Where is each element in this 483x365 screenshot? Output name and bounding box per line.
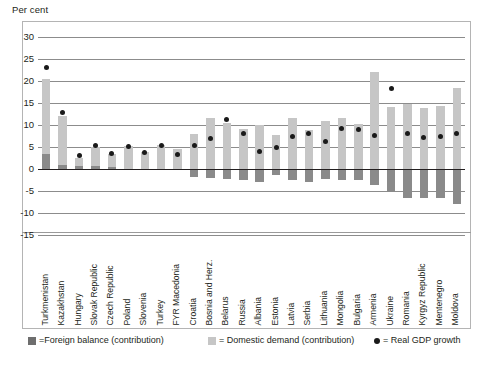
x-tick-label: Estonia	[271, 297, 280, 326]
bar-domestic-demand	[58, 116, 67, 169]
point-real-gdp-growth	[60, 110, 65, 115]
legend-label: =Foreign balance (contribution)	[39, 336, 164, 345]
bar-foreign-balance	[436, 169, 445, 198]
point-real-gdp-growth	[192, 143, 197, 148]
x-tick-label: FYR Macedonia	[173, 264, 182, 326]
x-tick-label: Russia	[238, 300, 247, 326]
bar-foreign-balance	[370, 169, 379, 185]
x-tick-label: Ukraine	[386, 296, 395, 326]
point-real-gdp-growth	[208, 136, 213, 141]
y-tick-label: -5	[6, 186, 34, 196]
legend-item-domestic-demand: = Domestic demand (contribution)	[208, 336, 354, 345]
legend-dot-icon	[374, 338, 380, 344]
bar-foreign-balance	[420, 169, 429, 198]
bar-foreign-balance	[453, 169, 462, 204]
x-tick-label: Lithuania	[320, 291, 329, 326]
bar-foreign-balance	[387, 169, 396, 192]
x-tick-label: Serbia	[304, 301, 313, 326]
bar-domestic-demand	[305, 130, 314, 169]
legend-swatch-icon	[28, 337, 36, 345]
x-axis-labels: TurkmenistanKazakhstanHungarySlovak Repu…	[38, 236, 465, 326]
point-real-gdp-growth	[241, 131, 246, 136]
y-tick-label: 30	[6, 32, 34, 42]
x-tick-label: Hungary	[74, 294, 83, 326]
x-tick-label: Turkey	[156, 300, 165, 326]
bar-domestic-demand	[272, 135, 281, 169]
chart-legend: =Foreign balance (contribution)= Domesti…	[22, 336, 471, 352]
bar-domestic-demand	[124, 146, 133, 169]
chart-figure: Per cent 302520151050-5-10-15 Turkmenist…	[0, 0, 483, 365]
bar-domestic-demand	[403, 104, 412, 169]
point-real-gdp-growth	[438, 134, 443, 139]
legend-label: = Domestic demand (contribution)	[219, 336, 354, 345]
bar-domestic-demand	[387, 107, 396, 169]
point-real-gdp-growth	[372, 133, 377, 138]
x-tick-label: Croatia	[189, 298, 198, 326]
y-tick-label: 20	[6, 76, 34, 86]
legend-swatch-icon	[208, 337, 216, 345]
legend-label: = Real GDP growth	[383, 336, 461, 345]
y-tick-label: 5	[6, 142, 34, 152]
y-axis-title: Per cent	[12, 4, 48, 15]
y-tick-label: 10	[6, 120, 34, 130]
bar-foreign-balance	[338, 169, 347, 180]
bar-foreign-balance	[288, 169, 297, 180]
bar-domestic-demand	[370, 72, 379, 169]
x-tick-label: Slovenia	[140, 293, 149, 326]
x-tick-label: Poland	[123, 299, 132, 326]
bar-foreign-balance	[239, 169, 248, 180]
bar-domestic-demand	[157, 145, 166, 169]
point-real-gdp-growth	[339, 126, 344, 131]
bar-foreign-balance	[255, 169, 264, 182]
x-tick-label: Mentenegro	[435, 280, 444, 326]
bar-foreign-balance	[321, 169, 330, 179]
legend-item-real-gdp-growth: = Real GDP growth	[374, 336, 461, 345]
bar-domestic-demand	[223, 123, 232, 169]
axis-separator-line	[22, 232, 471, 233]
y-tick-label: 25	[6, 54, 34, 64]
legend-item-foreign-balance: =Foreign balance (contribution)	[28, 336, 164, 345]
x-tick-label: Kyrgyz Republic	[419, 264, 428, 326]
point-real-gdp-growth	[356, 127, 361, 132]
x-tick-label: Latvia	[287, 303, 296, 326]
x-tick-label: Slovak Republic	[90, 264, 99, 326]
point-real-gdp-growth	[44, 65, 49, 70]
point-real-gdp-growth	[77, 153, 82, 158]
bar-foreign-balance	[354, 169, 363, 180]
bar-foreign-balance	[403, 169, 412, 198]
bar-domestic-demand	[206, 118, 215, 169]
x-tick-label: Romania	[402, 292, 411, 326]
point-real-gdp-growth	[274, 145, 279, 150]
point-real-gdp-growth	[159, 143, 164, 148]
x-tick-label: Turkmenistan	[41, 274, 50, 326]
x-tick-label: Bosnia and Herz.	[205, 260, 214, 326]
zero-axis-line	[38, 169, 465, 170]
x-tick-label: Albania	[255, 297, 264, 326]
point-real-gdp-growth	[93, 143, 98, 148]
bar-domestic-demand	[453, 88, 462, 169]
bar-domestic-demand	[255, 125, 264, 169]
plot-bars	[38, 31, 465, 231]
x-tick-label: Czech Republic	[107, 266, 116, 326]
y-tick-label: 0	[6, 164, 34, 174]
x-tick-label: Armenia	[370, 294, 379, 326]
x-tick-label: Kazakhstan	[58, 281, 67, 326]
x-tick-label: Belarus	[222, 297, 231, 326]
bar-domestic-demand	[321, 121, 330, 169]
y-tick-label: 15	[6, 98, 34, 108]
x-tick-label: Bulgaria	[353, 294, 362, 326]
point-real-gdp-growth	[175, 152, 180, 157]
point-real-gdp-growth	[224, 117, 229, 122]
x-tick-label: Mongolia	[337, 291, 346, 326]
y-tick-label: -10	[6, 208, 34, 218]
bar-foreign-balance	[223, 169, 232, 179]
bar-foreign-balance	[305, 169, 314, 182]
bar-domestic-demand	[190, 134, 199, 169]
bar-foreign-balance	[206, 169, 215, 178]
y-tick-label: -15	[6, 230, 34, 240]
bar-domestic-demand	[288, 118, 297, 169]
point-real-gdp-growth	[389, 86, 394, 91]
x-tick-label: Moldova	[452, 294, 461, 326]
point-real-gdp-growth	[126, 144, 131, 149]
y-axis-ticks: 302520151050-5-10-15	[0, 31, 34, 231]
